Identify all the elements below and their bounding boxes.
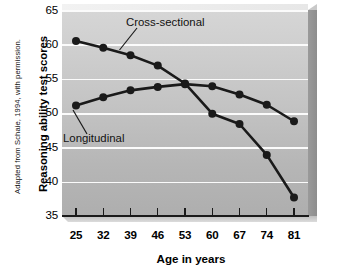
y-tick-label: 65 bbox=[28, 3, 58, 16]
plot-bottom-shadow bbox=[62, 216, 317, 222]
y-tick-label: 45 bbox=[28, 140, 58, 153]
line-cross-sectional bbox=[76, 41, 294, 198]
x-tick-mark bbox=[266, 208, 267, 215]
data-point bbox=[236, 90, 244, 98]
y-tick-label: 50 bbox=[28, 105, 58, 118]
data-point bbox=[236, 120, 244, 128]
data-point bbox=[290, 117, 298, 125]
data-point bbox=[72, 37, 80, 45]
data-point bbox=[99, 93, 107, 101]
y-tick-label: 55 bbox=[28, 71, 58, 84]
annotation-longitudinal: Longitudinal bbox=[63, 132, 124, 144]
chart-figure: Adapted from Schaie, 1994, with permissi… bbox=[0, 0, 346, 279]
data-point bbox=[154, 62, 162, 70]
x-tick-mark bbox=[239, 208, 240, 215]
data-point bbox=[72, 101, 80, 109]
data-point bbox=[127, 86, 135, 94]
line-longitudinal bbox=[76, 84, 294, 121]
y-tick-label: 40 bbox=[28, 174, 58, 187]
x-tick-mark bbox=[293, 208, 294, 215]
x-tick-mark bbox=[103, 208, 104, 215]
x-tick-mark bbox=[184, 208, 185, 215]
data-point bbox=[208, 82, 216, 90]
x-tick-mark bbox=[212, 208, 213, 215]
plot-area bbox=[62, 4, 346, 222]
plot-right-bevel bbox=[308, 10, 317, 222]
y-tick-label: 35 bbox=[28, 208, 58, 221]
y-tick-label: 60 bbox=[28, 37, 58, 50]
data-point bbox=[208, 110, 216, 118]
x-tick-label: 81 bbox=[277, 228, 311, 241]
x-tick-mark bbox=[157, 208, 158, 215]
data-point bbox=[263, 151, 271, 159]
data-point bbox=[290, 193, 298, 201]
leader-line-cross-sectional bbox=[120, 28, 138, 50]
annotation-cross-sectional: Cross-sectional bbox=[126, 16, 205, 28]
x-tick-mark bbox=[130, 208, 131, 215]
x-tick-mark bbox=[75, 208, 76, 215]
data-point bbox=[154, 83, 162, 91]
source-credit: Adapted from Schaie, 1994, with permissi… bbox=[13, 0, 22, 237]
x-axis-title: Age in years bbox=[62, 252, 320, 265]
data-point bbox=[263, 101, 271, 109]
data-point bbox=[181, 80, 189, 88]
markers-longitudinal bbox=[72, 80, 298, 125]
leader-line-longitudinal bbox=[73, 110, 87, 134]
series-overlay bbox=[62, 10, 308, 216]
markers-cross-sectional bbox=[72, 37, 298, 202]
data-point bbox=[99, 44, 107, 52]
data-point bbox=[127, 51, 135, 59]
